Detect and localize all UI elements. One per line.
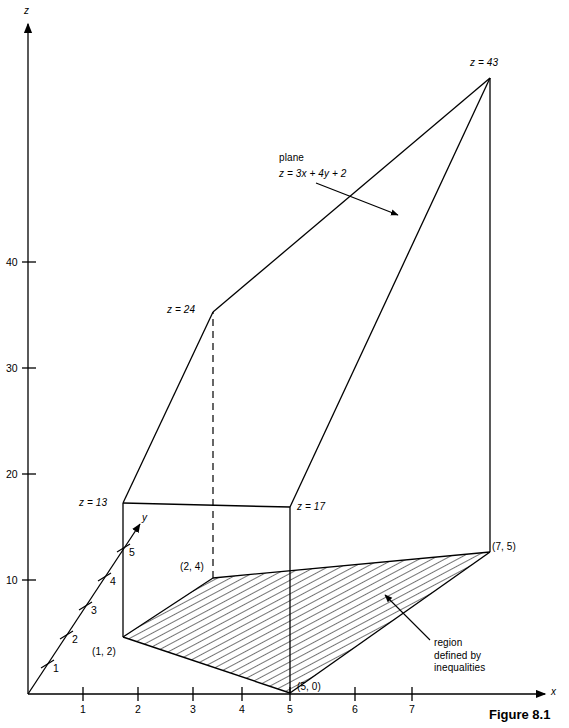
y-axis-label: y: [142, 512, 147, 523]
z-tick-10: 10: [6, 574, 18, 586]
plane-annotation-equation: z = 3x + 4y + 2: [279, 168, 346, 181]
x-axis-label: x: [551, 686, 556, 697]
label-z-13: z = 13: [79, 497, 107, 510]
label-point-7-5: (7, 5): [492, 541, 516, 554]
diagram-canvas: [0, 0, 569, 728]
z-axis-label: z: [24, 5, 29, 16]
plane-surface: [123, 78, 490, 507]
x-tick-7: 7: [409, 703, 415, 715]
z-tick-20: 20: [6, 468, 18, 480]
y-tick-5: 5: [129, 546, 135, 558]
y-tick-1: 1: [53, 662, 59, 674]
label-z-24: z = 24: [167, 304, 195, 317]
x-tick-2: 2: [135, 703, 141, 715]
y-tick-3: 3: [91, 604, 97, 616]
figure-caption: Figure 8.1: [489, 707, 550, 722]
x-tick-3: 3: [190, 703, 196, 715]
x-tick-1: 1: [80, 703, 86, 715]
z-tick-30: 30: [6, 362, 18, 374]
x-tick-5: 5: [287, 703, 293, 715]
label-point-5-0: (5, 0): [297, 681, 321, 694]
y-tick-4: 4: [110, 575, 116, 587]
label-point-1-2: (1, 2): [92, 646, 116, 659]
x-tick-6: 6: [352, 703, 358, 715]
plane-annotation-title: plane: [279, 152, 304, 165]
label-point-2-4: (2, 4): [180, 561, 204, 574]
x-tick-4: 4: [239, 703, 245, 715]
figure-container: z x y 10 20 30 40 1 2 3 4 5 6 7 1 2 3 4 …: [0, 0, 569, 728]
y-tick-2: 2: [72, 633, 78, 645]
z-tick-40: 40: [6, 256, 18, 268]
plane-leader-line: [316, 183, 398, 215]
region-annotation: region defined by inequalities: [434, 637, 485, 675]
z-axis: [22, 24, 36, 694]
label-z-17: z = 17: [297, 501, 325, 514]
label-z-43: z = 43: [470, 57, 498, 70]
